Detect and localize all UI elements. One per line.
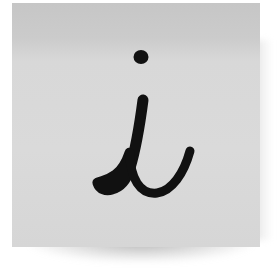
sticky-note (12, 3, 260, 247)
i-dot (134, 50, 149, 64)
i-tail (130, 151, 190, 193)
info-icon (12, 3, 260, 247)
